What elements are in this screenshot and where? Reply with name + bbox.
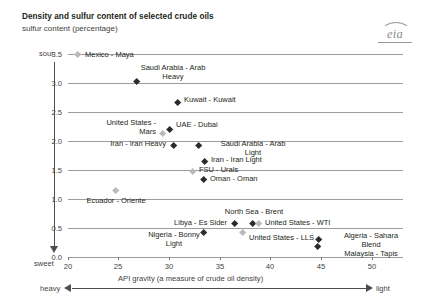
x-tickmark-35: [220, 257, 221, 260]
x-tick-40: 40: [255, 262, 285, 271]
plot-area: 3.5 3.0 2.5 2.0 1.5 1.0 0.5 0.0 20 25 30…: [0, 0, 423, 299]
x-tickmark-45: [321, 257, 322, 260]
x-axis-title: API gravity (a measure of crude oil dens…: [118, 274, 263, 283]
x-tick-25: 25: [103, 262, 133, 271]
point-label-iran-light: Iran - Iran Light: [211, 155, 262, 164]
x-tickmark-25: [118, 257, 119, 260]
data-point-libya-es-sider[interactable]: [230, 220, 238, 228]
x-tick-20: 20: [53, 262, 83, 271]
axis-annotation-heavy: heavy: [40, 284, 60, 293]
data-point-us-mars[interactable]: [159, 130, 167, 138]
heavy-light-arrow-head-right: [366, 284, 373, 292]
data-point-us-lls[interactable]: [238, 229, 246, 237]
gridline-2-5: [68, 112, 403, 113]
data-point-oman[interactable]: [200, 176, 208, 184]
sour-sweet-arrow-line: [54, 62, 55, 248]
sour-sweet-arrow-head: [50, 246, 58, 253]
point-label-mexico-maya: Mexico - Maya: [85, 50, 134, 59]
x-tickmark-30: [169, 257, 170, 260]
data-point-fsu-urals[interactable]: [189, 167, 197, 175]
x-tickmark-20: [68, 257, 69, 260]
point-label-oman: Oman - Oman: [210, 174, 258, 183]
point-label-kuwait: Kuwait - Kuwait: [184, 95, 236, 104]
y-tick-2-5: 2.5: [36, 108, 62, 117]
data-point-iran-heavy[interactable]: [170, 142, 178, 150]
heavy-light-arrow-head-left: [64, 284, 71, 292]
point-label-ecuador-oriente: Ecuador - Oriente: [80, 196, 152, 205]
data-point-us-wti[interactable]: [255, 220, 263, 228]
data-point-malaysia-tapis[interactable]: [314, 243, 322, 251]
point-label-uae-dubai: UAE - Dubai: [176, 120, 218, 129]
point-label-us-wti: United States - WTI: [265, 218, 330, 227]
gridline-3-0: [68, 83, 403, 84]
x-tickmark-40: [270, 257, 271, 260]
point-label-malaysia-tapis: Malaysia - Tapis: [325, 249, 417, 258]
x-tick-30: 30: [154, 262, 184, 271]
point-label-us-mars: United States - Mars: [88, 118, 156, 136]
y-tick-2-0: 2.0: [36, 137, 62, 146]
y-tick-1-0: 1.0: [36, 195, 62, 204]
chart-container: Density and sulfur content of selected c…: [0, 0, 423, 299]
data-point-kuwait[interactable]: [174, 98, 182, 106]
y-tick-0-5: 0.5: [36, 224, 62, 233]
point-label-north-sea-brent: North Sea - Brent: [216, 207, 292, 216]
x-tick-45: 45: [306, 262, 336, 271]
heavy-light-arrow-line: [72, 288, 368, 289]
data-point-ecuador-oriente[interactable]: [112, 187, 120, 195]
y-tick-1-5: 1.5: [36, 166, 62, 175]
x-tick-35: 35: [205, 262, 235, 271]
point-label-saudi-arab-heavy: Saudi Arabia - Arab Heavy: [118, 63, 228, 81]
x-tick-50: 50: [357, 262, 387, 271]
data-point-mexico-maya[interactable]: [74, 51, 82, 59]
gridline-0-5: [68, 228, 403, 229]
axis-annotation-sweet: sweet: [34, 259, 54, 268]
point-label-nigeria-bonny-light: Nigeria - Bonny Light: [140, 230, 208, 248]
y-tick-3-0: 3.0: [36, 79, 62, 88]
data-point-algeria-sahara-blend[interactable]: [315, 236, 323, 244]
point-label-us-lls: United States - LLS: [249, 233, 314, 242]
point-label-iran-heavy: Iran - Iran Heavy: [94, 139, 166, 148]
data-point-uae-dubai[interactable]: [166, 126, 174, 134]
point-label-algeria-sahara-blend: Algeria - Sahara Blend: [325, 231, 417, 249]
point-label-fsu-urals: FSU - Urals: [199, 165, 238, 174]
axis-annotation-light: light: [376, 284, 390, 293]
axis-annotation-sour: sour: [39, 49, 54, 58]
point-label-libya-es-sider: Libya - Es Sider: [155, 218, 227, 227]
data-point-saudi-arab-light[interactable]: [195, 142, 203, 150]
